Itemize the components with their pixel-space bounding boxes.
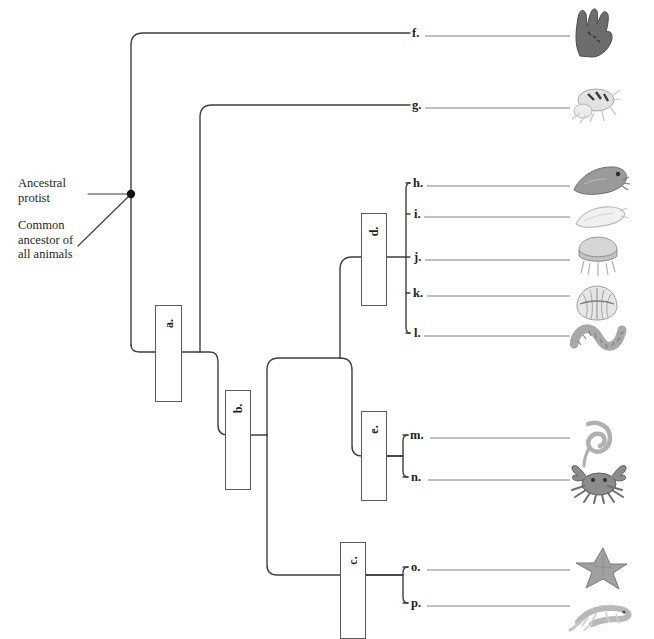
blank-label-m[interactable]: m.	[410, 428, 424, 443]
annotation-common-ancestor: Common ancestor of all animals	[18, 218, 96, 262]
node-box-e[interactable]: e.	[361, 411, 387, 501]
phylogenetic-tree-worksheet: Ancestral protist Common ancestor of all…	[0, 0, 654, 639]
branch-f	[131, 33, 410, 194]
node-box-b[interactable]: b.	[225, 390, 251, 490]
node-box-e-label: e.	[367, 425, 382, 433]
node-box-a[interactable]: a.	[155, 305, 182, 402]
blank-label-f[interactable]: f.	[412, 26, 419, 41]
node-box-a-label: a.	[161, 319, 176, 328]
jellyfish-icon	[572, 232, 622, 278]
blank-lines	[424, 36, 570, 606]
flatworm-icon	[572, 200, 630, 232]
node-box-d-label: d.	[367, 227, 382, 237]
blank-label-n[interactable]: n.	[411, 470, 421, 485]
arthropod-icon	[566, 82, 624, 126]
sponge-icon	[568, 4, 618, 58]
branch-hl-spine	[406, 183, 410, 333]
blank-label-p[interactable]: p.	[411, 596, 421, 611]
annotation-ancestral-protist: Ancestral protist	[18, 176, 90, 205]
node-box-d[interactable]: d.	[361, 213, 387, 306]
blank-label-o[interactable]: o.	[411, 560, 420, 575]
crab-icon	[568, 460, 630, 504]
node-box-c-label: c.	[346, 556, 361, 564]
root-node-dot	[127, 190, 135, 198]
node-box-c[interactable]: c.	[340, 542, 366, 639]
branch-mn-spine	[403, 435, 408, 477]
node-box-b-label: b.	[231, 404, 246, 414]
lizard-icon	[568, 596, 632, 634]
branch-b-spine	[267, 358, 340, 435]
blank-label-k[interactable]: k.	[413, 286, 423, 301]
blank-label-i[interactable]: i.	[414, 207, 421, 222]
starfish-icon	[572, 546, 628, 590]
tree-diagram	[0, 0, 654, 639]
blank-label-l[interactable]: l.	[414, 326, 421, 341]
blank-label-j[interactable]: j.	[414, 250, 421, 265]
blank-label-g[interactable]: g.	[412, 98, 421, 113]
squid-icon	[570, 162, 632, 200]
blank-label-h[interactable]: h.	[413, 176, 423, 191]
branch-op-spine	[403, 567, 408, 603]
segmented-worm-icon	[570, 314, 628, 354]
